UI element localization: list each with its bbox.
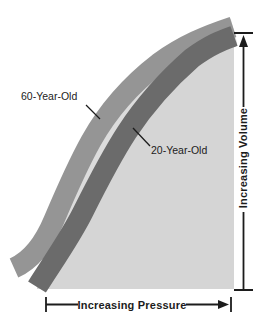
y-axis-label-increasing-volume: Increasing Volume [238,108,249,208]
figure-canvas [0,0,262,320]
pv-curves-figure: 60-Year-Old 20-Year-Old Increasing Press… [0,0,262,320]
curve-label-20-year-old: 20-Year-Old [151,145,207,156]
curve-label-60-year-old: 60-Year-Old [21,91,77,102]
x-axis-label-increasing-pressure: Increasing Pressure [78,300,187,311]
volume-axis-up-arrow-icon [239,35,248,47]
pressure-axis-right-arrow-icon [218,300,229,309]
